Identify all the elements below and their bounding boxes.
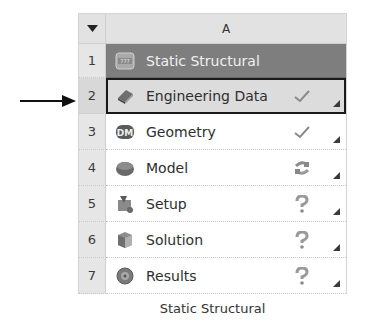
- cell-geometry[interactable]: 3 DM Geometry: [79, 114, 346, 150]
- context-menu-corner-icon[interactable]: [333, 244, 340, 251]
- cell-label: Model: [146, 160, 188, 176]
- cell-results[interactable]: 7 Results: [79, 258, 346, 294]
- system-title[interactable]: Static Structural: [146, 53, 260, 69]
- attention-required-icon: [292, 230, 312, 250]
- collapse-toggle[interactable]: [79, 14, 106, 44]
- context-menu-corner-icon[interactable]: [333, 100, 340, 107]
- results-icon: [114, 265, 136, 287]
- setup-icon: [114, 193, 136, 215]
- annotation-arrow-icon: [20, 95, 76, 107]
- triangle-down-icon: [87, 25, 98, 32]
- cell-setup[interactable]: 5 Setup: [79, 186, 346, 222]
- context-menu-corner-icon[interactable]: [333, 280, 340, 287]
- cell-label: Solution: [146, 232, 203, 248]
- svg-text:DM: DM: [117, 128, 133, 138]
- check-icon: [292, 86, 312, 106]
- context-menu-corner-icon[interactable]: [333, 172, 340, 179]
- row-number: 2: [79, 78, 106, 114]
- row-number: 7: [79, 258, 106, 294]
- attention-required-icon: [292, 266, 312, 286]
- cell-model[interactable]: 4 Model: [79, 150, 346, 186]
- attention-required-icon: [292, 194, 312, 214]
- refresh-required-icon: [292, 158, 312, 178]
- cell-label: Results: [146, 268, 197, 284]
- static-structural-icon: 777: [114, 50, 136, 72]
- cell-solution[interactable]: 6 Solution: [79, 222, 346, 258]
- check-icon: [292, 122, 312, 142]
- context-menu-corner-icon[interactable]: [333, 136, 340, 143]
- svg-text:777: 777: [120, 58, 130, 64]
- system-title-row[interactable]: 1 777 Static Structural: [79, 44, 346, 78]
- model-icon: [114, 157, 136, 179]
- row-number: 4: [79, 150, 106, 186]
- row-number: 1: [79, 44, 106, 78]
- cell-label: Geometry: [146, 124, 216, 140]
- engineering-data-icon: [114, 85, 136, 107]
- column-header-a: A: [106, 14, 346, 44]
- row-number: 6: [79, 222, 106, 258]
- cell-label: Setup: [146, 196, 187, 212]
- system-caption[interactable]: Static Structural: [78, 301, 347, 316]
- column-header-row: A: [79, 14, 346, 44]
- context-menu-corner-icon[interactable]: [333, 208, 340, 215]
- geometry-dm-icon: DM: [114, 121, 136, 143]
- cell-label: Engineering Data: [146, 88, 268, 104]
- row-number: 5: [79, 186, 106, 222]
- analysis-system-block: A 1 777 Static Structural 2 Engineering …: [78, 13, 347, 294]
- row-number: 3: [79, 114, 106, 150]
- cell-engineering-data[interactable]: 2 Engineering Data: [79, 78, 346, 114]
- solution-icon: [114, 229, 136, 251]
